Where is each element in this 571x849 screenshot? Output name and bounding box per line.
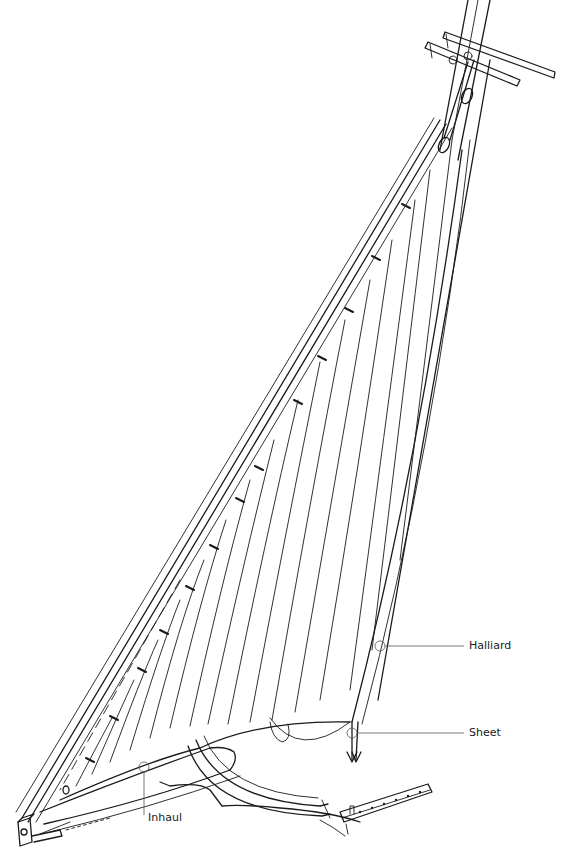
sheet-bar: [340, 784, 432, 834]
sail-seams: [76, 140, 452, 786]
tack-fitting: [18, 786, 110, 846]
rig-illustration: [0, 0, 571, 849]
callouts: [139, 641, 464, 815]
label-halliard: Halliard: [469, 640, 511, 651]
label-inhaul: Inhaul: [148, 812, 182, 823]
sail-rig-diagram: Halliard Sheet Inhaul: [0, 0, 571, 849]
hull-edge: [160, 782, 360, 822]
yard: [16, 118, 452, 822]
label-sheet: Sheet: [469, 727, 501, 738]
crosstrees: [425, 32, 555, 86]
